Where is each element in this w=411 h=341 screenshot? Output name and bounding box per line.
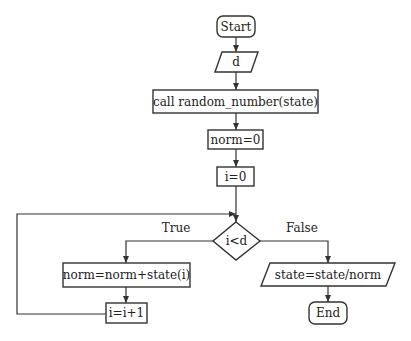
node-condition-label: i<d — [226, 234, 248, 248]
node-accumulate-label: norm=norm+state(i) — [63, 268, 191, 282]
node-i-init: i=0 — [217, 167, 254, 186]
node-start: Start — [217, 16, 255, 37]
edge-label-false: False — [286, 221, 318, 235]
node-increment: i=i+1 — [106, 303, 147, 323]
node-accumulate: norm=norm+state(i) — [63, 263, 191, 287]
node-normalize: state=state/norm — [261, 263, 395, 286]
node-input-d: d — [215, 52, 258, 72]
node-increment-label: i=i+1 — [109, 306, 144, 320]
edge-label-true: True — [162, 221, 191, 235]
flowchart: Start d call random_number(state) norm=0… — [0, 0, 411, 341]
node-end-label: End — [316, 306, 340, 320]
node-start-label: Start — [221, 20, 252, 34]
node-norm-init: norm=0 — [208, 130, 263, 149]
node-norm-init-label: norm=0 — [211, 133, 261, 147]
node-call-label: call random_number(state) — [153, 95, 318, 109]
node-i-init-label: i=0 — [225, 170, 247, 184]
node-condition: i<d — [213, 222, 260, 260]
node-end: End — [309, 302, 347, 324]
edge-cond-true — [126, 241, 213, 263]
node-normalize-label: state=state/norm — [275, 268, 382, 282]
node-call: call random_number(state) — [153, 90, 318, 113]
edge-cond-false — [260, 241, 328, 263]
node-input-d-label: d — [232, 55, 240, 69]
